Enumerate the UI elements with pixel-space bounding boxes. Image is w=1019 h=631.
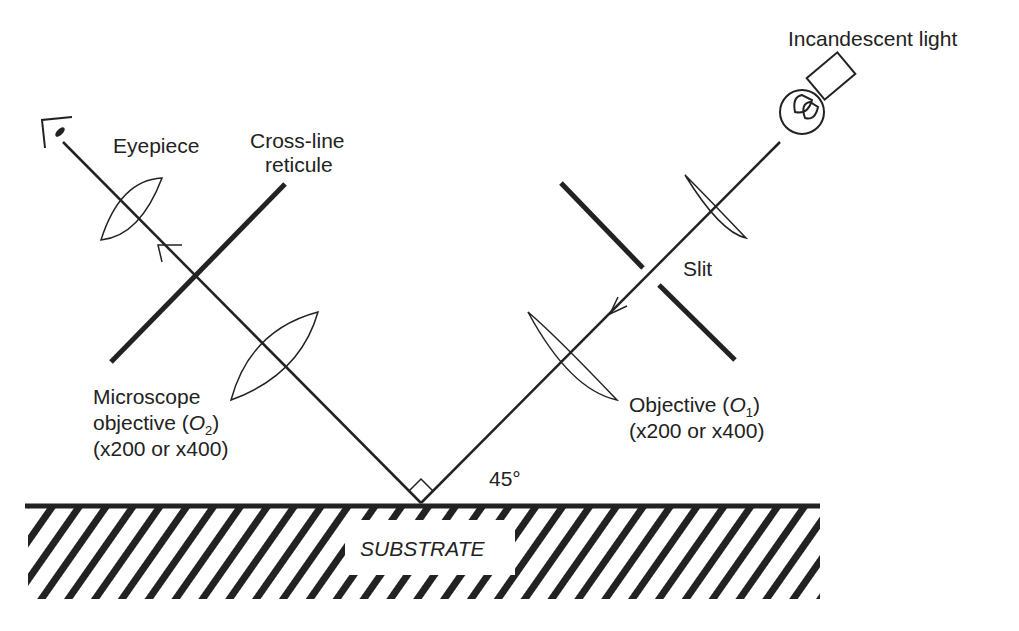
objective-o1-lens	[528, 312, 617, 400]
eye-icon	[42, 117, 72, 148]
incandescent-light-icon	[780, 52, 855, 134]
angle-label: 45°	[489, 467, 521, 490]
eyepiece-label: Eyepiece	[113, 134, 199, 157]
cross-line-reticule	[111, 184, 285, 362]
incident-beam	[421, 142, 780, 503]
objective-o1-label-line2: (x200 or x400)	[629, 419, 764, 442]
reticule-label-line1: Cross-line	[250, 129, 345, 152]
slit-lower-blade	[659, 285, 735, 360]
microscope-objective-label-line1: Microscope	[93, 385, 200, 408]
objective-o1-label-line1: Objective (O1)	[629, 393, 760, 420]
microscope-objective-label-line3: (x200 or x400)	[93, 437, 228, 460]
eyepiece-lens	[101, 178, 162, 240]
right-angle-marker	[409, 479, 433, 491]
substrate-label: SUBSTRATE	[360, 537, 485, 560]
slit-label: Slit	[683, 257, 712, 280]
slit-upper-blade	[561, 183, 643, 268]
diagram-canvas: SUBSTRATE Incandescent light Eyepiece Cr…	[0, 0, 1019, 631]
reticule-label-line2: reticule	[265, 153, 333, 176]
incandescent-light-label: Incandescent light	[788, 27, 957, 50]
microscope-objective-label-line2: objective (O2)	[93, 411, 219, 438]
